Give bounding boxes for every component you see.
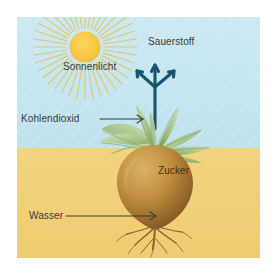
label-sauerstoff: Sauerstoff	[148, 37, 194, 47]
label-zucker: Zucker	[158, 166, 189, 176]
illustration-frame	[17, 17, 260, 258]
label-wasser: Wasser	[29, 211, 63, 221]
scene-svg	[17, 17, 260, 258]
label-sonnenlicht: Sonnenlicht	[63, 62, 116, 72]
label-kohlendioxid: Kohlendioxid	[21, 114, 79, 124]
photosynthesis-diagram-page: Sonnenlicht Sauerstoff Kohlendioxid Zuck…	[0, 0, 276, 272]
sun-disc	[70, 32, 101, 63]
